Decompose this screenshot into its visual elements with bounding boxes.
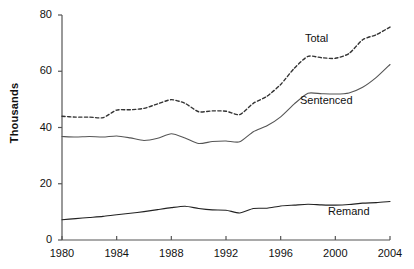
y-tick-label: 0 (22, 234, 52, 245)
x-tick-label: 1984 (94, 248, 140, 259)
series-label-sentenced: Sentenced (300, 95, 353, 106)
x-tick-label: 1988 (148, 248, 194, 259)
series-label-remand: Remand (328, 206, 370, 217)
data-series-group (62, 27, 390, 220)
x-tick-label: 1996 (258, 248, 304, 259)
x-tick-label: 2000 (312, 248, 358, 259)
y-axis-title: Thousands (8, 68, 20, 158)
x-tick-label: 1980 (39, 248, 85, 259)
y-tick-label: 80 (22, 9, 52, 20)
y-tick-label: 40 (22, 122, 52, 133)
chart-plot-area (0, 0, 414, 269)
x-tick-label: 2004 (367, 248, 413, 259)
series-label-total: Total (305, 33, 328, 44)
chart-container: Thousands 020406080 19801984198819921996… (0, 0, 414, 269)
x-tick-label: 1992 (203, 248, 249, 259)
y-tick-label: 60 (22, 65, 52, 76)
y-tick-label: 20 (22, 178, 52, 189)
